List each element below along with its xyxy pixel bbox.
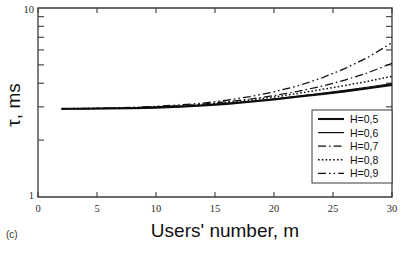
- x-tick-label: 5: [94, 203, 99, 214]
- y-tick-label-min: 1: [29, 190, 34, 201]
- x-tick-label: 10: [151, 203, 162, 214]
- figure-panel: 051015202530101H=0,5H=0,6H=0,7H=0,8H=0,9…: [0, 0, 407, 255]
- y-tick-label-max: 10: [24, 4, 35, 15]
- legend-label-h-0-5: H=0,5: [350, 113, 378, 125]
- y-axis-title: τ, ms: [3, 83, 24, 126]
- legend-label-h-0-9: H=0,9: [350, 167, 378, 179]
- x-tick-label: 15: [210, 203, 221, 214]
- x-axis-title: Users' number, m: [151, 220, 299, 241]
- x-tick-label: 20: [269, 203, 280, 214]
- legend-label-h-0-8: H=0,8: [350, 154, 378, 166]
- chart-canvas: 051015202530101H=0,5H=0,6H=0,7H=0,8H=0,9…: [0, 0, 407, 255]
- x-tick-label: 25: [328, 203, 339, 214]
- curve-h-0-5: [62, 85, 392, 109]
- curve-h-0-6: [62, 84, 392, 109]
- curve-h-0-9: [62, 43, 392, 109]
- legend-label-h-0-7: H=0,7: [350, 140, 378, 152]
- panel-label: (c): [6, 229, 18, 240]
- legend-label-h-0-6: H=0,6: [350, 127, 378, 139]
- x-tick-label: 30: [387, 203, 398, 214]
- x-tick-label: 0: [35, 203, 40, 214]
